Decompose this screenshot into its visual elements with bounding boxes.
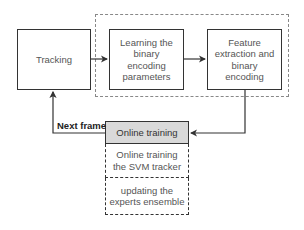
connectors [0, 0, 304, 230]
arrow-feature-to-online-training [191, 90, 245, 133]
next-frame-label: Next frame [57, 120, 106, 131]
